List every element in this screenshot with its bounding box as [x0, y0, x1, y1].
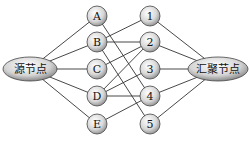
- node-label: 5: [147, 118, 154, 131]
- node-label: B: [93, 36, 101, 49]
- node-3: 3: [140, 59, 160, 79]
- node-5: 5: [140, 114, 160, 134]
- node-E: E: [87, 114, 107, 134]
- node-label: 1: [147, 10, 154, 23]
- node-B: B: [87, 32, 107, 52]
- node-label: 3: [147, 63, 154, 76]
- source-node: 源节点: [3, 57, 57, 81]
- node-label: D: [93, 90, 102, 103]
- node-label: E: [93, 118, 101, 131]
- node-label: 源节点: [14, 62, 47, 76]
- node-label: A: [92, 10, 102, 23]
- diagram-canvas: 源节点汇聚节点ABCDE12345: [0, 0, 249, 142]
- node-label: 2: [147, 36, 154, 49]
- node-label: 汇聚节点: [196, 63, 240, 76]
- node-C: C: [87, 59, 107, 79]
- node-label: 4: [147, 90, 154, 103]
- node-4: 4: [140, 86, 160, 106]
- sink-node: 汇聚节点: [188, 57, 248, 81]
- nodes-layer: 源节点汇聚节点ABCDE12345: [3, 6, 248, 134]
- network-diagram: 源节点汇聚节点ABCDE12345: [0, 0, 249, 142]
- node-A: A: [87, 6, 107, 26]
- node-D: D: [87, 86, 107, 106]
- node-1: 1: [140, 6, 160, 26]
- node-2: 2: [140, 32, 160, 52]
- node-label: C: [93, 63, 101, 76]
